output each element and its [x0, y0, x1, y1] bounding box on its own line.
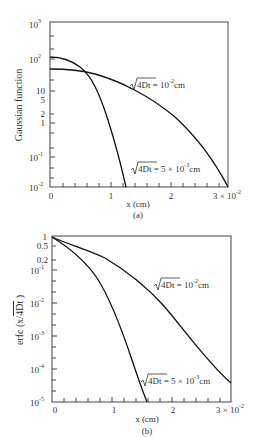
svg-text:102: 102 — [29, 53, 41, 65]
svg-text:10-2: 10-2 — [29, 181, 43, 193]
svg-text:5: 5 — [41, 95, 46, 105]
annotation-b-narrow: 4Dt = 5 × 10-3cm — [141, 374, 210, 386]
y-ticks-b — [52, 246, 57, 391]
y-axis-label-b: erfc (x/4Dt ) — [14, 295, 26, 345]
svg-text:0.5: 0.5 — [37, 241, 49, 251]
x-axis-label-a: x (cm) — [126, 199, 150, 209]
curve-a-narrow — [50, 57, 126, 187]
svg-text:4Dt = 5 × 10-3cm: 4Dt = 5 × 10-3cm — [148, 374, 210, 386]
figure: 103 102 10 5 2 1 10-1 10-2 0 1 2 3 × 10-… — [0, 0, 256, 437]
y-axis-label-a: Gaussian function — [13, 69, 24, 142]
x-axis-label-b: x (cm) — [135, 414, 159, 424]
svg-text:10-3: 10-3 — [30, 330, 44, 342]
svg-text:10-5: 10-5 — [30, 396, 44, 408]
svg-text:4Dt = 5 × 10-3cm: 4Dt = 5 × 10-3cm — [138, 162, 200, 174]
annotation-a-wide: 4Dt = 10-2cm — [130, 78, 185, 90]
svg-text:0: 0 — [53, 405, 58, 415]
x-ticks-b — [64, 397, 220, 402]
svg-text:10-2: 10-2 — [30, 297, 44, 309]
svg-text:1: 1 — [112, 405, 117, 415]
curve-b-narrow — [52, 237, 147, 402]
svg-text:3 × 10-2: 3 × 10-2 — [216, 403, 244, 415]
panel-a: 103 102 10 5 2 1 10-1 10-2 0 1 2 3 × 10-… — [13, 18, 241, 220]
y-tick-labels-b: 1 0.5 0.2 10-1 10-2 10-3 10-4 10-5 — [30, 232, 49, 408]
panel-b: 1 0.5 0.2 10-1 10-2 10-3 10-4 10-5 0 1 2… — [14, 232, 244, 436]
svg-text:3 × 10-2: 3 × 10-2 — [213, 189, 241, 201]
svg-text:2: 2 — [169, 191, 174, 201]
svg-text:1: 1 — [109, 191, 114, 201]
svg-text:10-4: 10-4 — [30, 363, 44, 375]
y-tick-labels-a: 103 102 10 5 2 1 10-1 10-2 — [29, 18, 46, 193]
svg-text:2: 2 — [171, 405, 176, 415]
annotation-a-narrow: 4Dt = 5 × 10-3cm — [131, 162, 200, 174]
svg-text:0: 0 — [49, 191, 54, 201]
svg-text:103: 103 — [29, 18, 41, 30]
svg-text:10-1: 10-1 — [30, 264, 44, 276]
svg-text:4Dt = 10-2cm: 4Dt = 10-2cm — [137, 78, 185, 90]
x-ticks-a — [63, 182, 219, 187]
panel-label-b: (b) — [142, 426, 153, 436]
svg-text:1: 1 — [41, 118, 46, 128]
panel-label-a: (a) — [133, 210, 143, 220]
svg-text:4Dt = 10-2cm: 4Dt = 10-2cm — [161, 278, 209, 290]
annotation-b-wide: 4Dt = 10-2cm — [154, 278, 209, 290]
svg-text:10-1: 10-1 — [29, 151, 43, 163]
curve-b-wide — [52, 237, 231, 383]
